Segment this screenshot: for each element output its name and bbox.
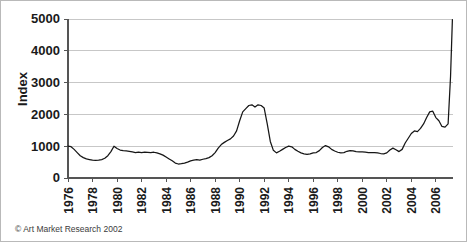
x-tick-label: 1992	[258, 187, 272, 214]
x-tick-label: 1990	[233, 187, 247, 214]
x-tick-label: 2006	[429, 187, 443, 214]
x-tick-label: 1994	[282, 187, 296, 214]
y-axis-tick-labels: 010002000300040005000	[31, 11, 60, 185]
x-tick-label: 1984	[160, 187, 174, 214]
gridlines	[68, 19, 453, 146]
x-tick-label: 2002	[380, 187, 394, 214]
y-axis-title: Index	[15, 71, 30, 106]
x-tick-label: 2004	[405, 187, 419, 214]
chart-figure: 010002000300040005000 197619781980198219…	[0, 0, 467, 242]
x-tick-label: 2000	[356, 187, 370, 214]
x-tick-label: 1996	[307, 187, 321, 214]
copyright-credit: © Art Market Research 2002	[15, 224, 123, 234]
x-tick-label: 1976	[62, 187, 76, 214]
axes	[68, 19, 453, 178]
data-series	[68, 20, 452, 164]
x-axis-tick-labels: 1976197819801982198419861988199019921994…	[62, 187, 444, 214]
y-tick-label: 2000	[31, 107, 60, 122]
x-tick-label: 1986	[184, 187, 198, 214]
series-line-art-market-index	[68, 20, 452, 164]
line-chart: 010002000300040005000 197619781980198219…	[1, 1, 467, 242]
y-tick-label: 3000	[31, 75, 60, 90]
x-tick-label: 1998	[331, 187, 345, 214]
x-tick-label: 1980	[111, 187, 125, 214]
x-tick-label: 1982	[135, 187, 149, 214]
y-tick-label: 5000	[31, 11, 60, 26]
y-tick-label: 1000	[31, 139, 60, 154]
y-tick-label: 4000	[31, 43, 60, 58]
x-tick-label: 1988	[209, 187, 223, 214]
x-tick-label: 1978	[86, 187, 100, 214]
tick-marks	[64, 19, 436, 182]
y-tick-label: 0	[53, 170, 60, 185]
